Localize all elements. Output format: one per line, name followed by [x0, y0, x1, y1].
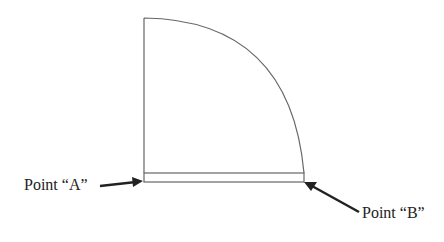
- arrow-a-icon: [100, 177, 143, 187]
- arrow-b-icon: [304, 182, 359, 212]
- point-a-label: Point “A”: [24, 176, 88, 194]
- swing-arc: [144, 18, 304, 173]
- point-b-label: Point “B”: [362, 204, 425, 222]
- threshold-rect: [144, 173, 304, 182]
